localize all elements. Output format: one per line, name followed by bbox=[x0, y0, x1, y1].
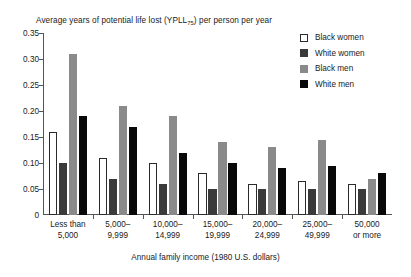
bar-black-women bbox=[49, 132, 57, 215]
x-axis-group-tick bbox=[242, 215, 243, 219]
y-axis-tick-label: 0.30 bbox=[0, 55, 39, 64]
bar-black-men bbox=[218, 142, 226, 215]
y-axis-tick-label: 0.05 bbox=[0, 185, 39, 194]
bar-black-women bbox=[99, 158, 107, 215]
bar-black-women bbox=[198, 173, 206, 215]
chart-title-subscript: 75 bbox=[187, 20, 194, 26]
x-axis-category-label-line: 15,000– bbox=[193, 220, 243, 231]
bar-groups bbox=[43, 33, 392, 215]
y-axis-tick-labels: 00.050.100.150.200.250.300.35 bbox=[0, 33, 39, 215]
chart-title-tail: ) per person per year bbox=[194, 16, 272, 25]
bar-white-men bbox=[278, 168, 286, 215]
bar-black-men bbox=[69, 54, 77, 215]
x-axis-category-label-line: 20,000– bbox=[242, 220, 292, 231]
x-axis-group-tick bbox=[143, 215, 144, 219]
bar-white-women bbox=[159, 184, 167, 215]
x-axis-category-label-line: Less than bbox=[43, 220, 93, 231]
bar-white-men bbox=[129, 127, 137, 215]
x-axis-category-label: 15,000–19,999 bbox=[193, 220, 243, 241]
bar-black-women bbox=[149, 163, 157, 215]
x-axis-category-label-line: 50,000 bbox=[342, 220, 392, 231]
bar-white-men bbox=[79, 116, 87, 215]
x-axis-category-label: 5,000–9,999 bbox=[93, 220, 143, 241]
plot-area bbox=[43, 33, 392, 215]
bar-white-men bbox=[378, 173, 386, 215]
x-axis-category-label: 50,000or more bbox=[342, 220, 392, 241]
bar-group bbox=[292, 33, 342, 215]
bar-white-men bbox=[228, 163, 236, 215]
bar-black-men bbox=[119, 106, 127, 215]
bar-white-women bbox=[358, 189, 366, 215]
x-axis-category-label-line: 24,999 bbox=[242, 231, 292, 242]
bar-black-women bbox=[298, 181, 306, 215]
x-axis-category-label-line: 9,999 bbox=[93, 231, 143, 242]
bar-group bbox=[43, 33, 93, 215]
bar-group bbox=[93, 33, 143, 215]
y-axis-tick-label: 0.20 bbox=[0, 107, 39, 116]
x-axis-group-tick bbox=[292, 215, 293, 219]
bar-white-women bbox=[258, 189, 266, 215]
x-axis-category-label-line: 5,000– bbox=[93, 220, 143, 231]
x-axis-category-label: 25,000–49,999 bbox=[292, 220, 342, 241]
x-axis-category-label: Less than5,000 bbox=[43, 220, 93, 241]
bar-group bbox=[193, 33, 243, 215]
bar-black-men bbox=[318, 140, 326, 215]
x-axis-category-label-line: 14,999 bbox=[143, 231, 193, 242]
x-axis-category-label-line: or more bbox=[342, 231, 392, 242]
chart-title: Average years of potential life lost (YP… bbox=[36, 16, 272, 25]
bar-white-women bbox=[208, 189, 216, 215]
x-axis-group-tick bbox=[342, 215, 343, 219]
y-axis-tick-label: 0 bbox=[0, 211, 39, 220]
bar-black-women bbox=[348, 184, 356, 215]
y-axis-tick-label: 0.25 bbox=[0, 81, 39, 90]
x-axis-category-label-line: 5,000 bbox=[43, 231, 93, 242]
x-axis-group-tick bbox=[193, 215, 194, 219]
chart-container: Average years of potential life lost (YP… bbox=[0, 0, 411, 277]
x-axis-category-label-line: 49,999 bbox=[292, 231, 342, 242]
bar-group bbox=[342, 33, 392, 215]
bar-white-women bbox=[308, 189, 316, 215]
bar-black-men bbox=[368, 179, 376, 215]
chart-title-main: Average years of potential life lost (YP… bbox=[36, 16, 187, 25]
x-axis-category-label-line: 19,999 bbox=[193, 231, 243, 242]
x-axis-category-label: 10,000–14,999 bbox=[143, 220, 193, 241]
bar-group bbox=[143, 33, 193, 215]
bar-white-women bbox=[109, 179, 117, 215]
x-axis-category-label-line: 25,000– bbox=[292, 220, 342, 231]
x-axis-title: Annual family income (1980 U.S. dollars) bbox=[0, 253, 411, 262]
x-axis-category-label: 20,000–24,999 bbox=[242, 220, 292, 241]
bar-black-women bbox=[248, 184, 256, 215]
bar-white-women bbox=[59, 163, 67, 215]
bar-black-men bbox=[268, 147, 276, 215]
x-axis-category-labels: Less than5,0005,000–9,99910,000–14,99915… bbox=[43, 220, 392, 241]
bar-group bbox=[242, 33, 292, 215]
y-axis-tick-label: 0.10 bbox=[0, 159, 39, 168]
bar-white-men bbox=[328, 166, 336, 215]
y-axis-tick-label: 0.15 bbox=[0, 133, 39, 142]
y-axis-tick-label: 0.35 bbox=[0, 29, 39, 38]
x-axis-group-tick bbox=[93, 215, 94, 219]
x-axis-category-label-line: 10,000– bbox=[143, 220, 193, 231]
bar-white-men bbox=[179, 153, 187, 215]
bar-black-men bbox=[169, 116, 177, 215]
